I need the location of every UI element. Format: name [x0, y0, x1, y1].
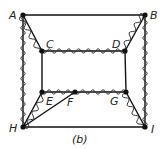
edges: [19, 14, 147, 129]
node-d: [122, 48, 127, 53]
node-a: [20, 12, 25, 17]
node-f: [72, 89, 77, 94]
node-label-b: B: [150, 9, 158, 22]
edge-d-g: [125, 51, 126, 92]
node-label-a: A: [8, 9, 17, 22]
edge-a-c: [23, 15, 42, 51]
edge-b-d: [125, 15, 145, 51]
node-e: [39, 89, 44, 94]
node-label-i: I: [151, 123, 154, 136]
node-c: [39, 48, 44, 53]
node-label-f: F: [67, 96, 74, 109]
wavy-edge-g-i: [122, 93, 143, 128]
node-label-h: H: [9, 122, 17, 135]
node-i: [142, 124, 147, 129]
graph-diagram: ABCDEFGHI (b): [0, 0, 162, 149]
wavy-edge-b-d: [122, 14, 142, 50]
node-h: [20, 124, 25, 129]
figure-caption: (b): [72, 133, 88, 146]
node-label-e: E: [46, 95, 53, 108]
node-b: [142, 12, 147, 17]
node-g: [123, 89, 128, 94]
node-label-g: G: [110, 95, 119, 108]
node-label-d: D: [112, 38, 120, 51]
edge-g-i: [126, 92, 145, 127]
nodes: [20, 12, 147, 129]
edge-h-e: [23, 92, 42, 127]
node-label-c: C: [46, 38, 54, 51]
